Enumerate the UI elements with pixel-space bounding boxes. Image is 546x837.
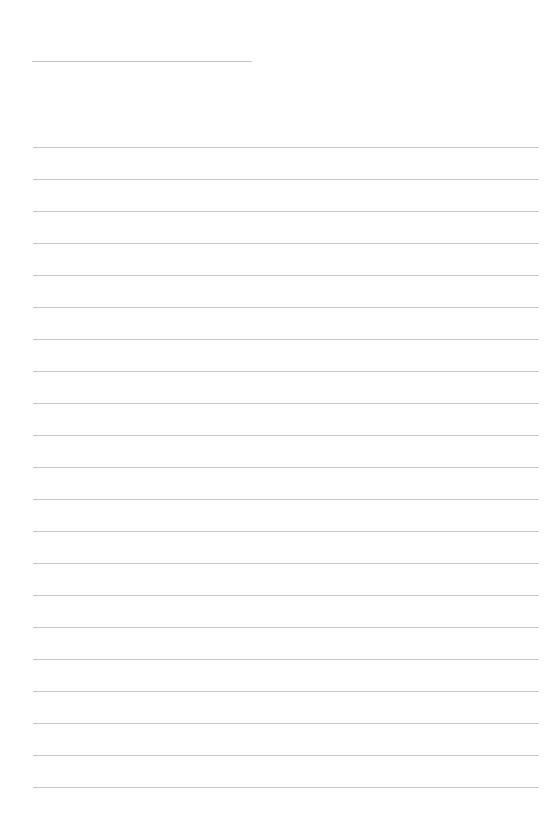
ruled-line — [33, 307, 539, 308]
ruled-line — [33, 147, 539, 148]
ruled-line — [33, 499, 539, 500]
ruled-line — [33, 659, 539, 660]
ruled-line — [33, 243, 539, 244]
ruled-line — [33, 467, 539, 468]
lined-paper-page — [0, 0, 546, 837]
ruled-line — [33, 691, 539, 692]
ruled-line — [33, 339, 539, 340]
ruled-line — [33, 179, 539, 180]
ruled-line — [33, 371, 539, 372]
ruled-line — [33, 531, 539, 532]
ruled-line — [33, 563, 539, 564]
ruled-line — [33, 787, 539, 788]
ruled-line — [33, 403, 539, 404]
ruled-line — [33, 627, 539, 628]
ruled-line — [33, 275, 539, 276]
ruled-line — [33, 595, 539, 596]
ruled-line — [33, 211, 539, 212]
title-line — [32, 61, 252, 62]
ruled-line — [33, 723, 539, 724]
ruled-line — [33, 435, 539, 436]
ruled-line — [33, 755, 539, 756]
